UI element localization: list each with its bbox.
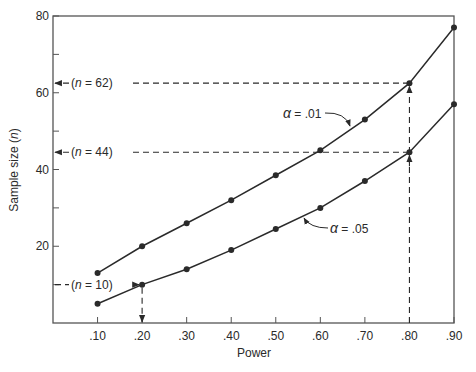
y-tick-label: 60 [36,86,50,100]
data-point [362,117,368,123]
x-tick-label: .60 [312,329,329,343]
annotation-value: = 44) [82,145,113,159]
series-labels: α = .01α = .05 [283,105,369,236]
x-tick-label: .90 [446,329,463,343]
y-tick-label: 80 [36,9,50,23]
series-label-alpha-05: α = .05 [330,220,369,236]
data-point [273,226,279,232]
x-tick-label: .50 [267,329,284,343]
x-tick-label: .20 [134,329,151,343]
annotation-label: (n = 10) [71,278,113,292]
y-axis: 20406080 [36,9,59,285]
plot-border [53,16,454,323]
data-point [406,80,412,86]
data-point [95,270,101,276]
annotation-label: (n = 44) [71,145,113,159]
y-tick-label: 40 [36,163,50,177]
data-point [228,197,234,203]
annotation-value: = 62) [82,76,113,90]
series-line-0 [98,28,454,274]
x-axis-title: Power [237,346,271,360]
data-point [184,266,190,272]
alpha-value: = .01 [291,107,322,121]
data-point [95,301,101,307]
data-point [406,149,412,155]
leader-arrow-01 [325,113,350,126]
data-point [139,282,145,288]
leader-arrow-05 [304,218,328,228]
data-point [317,205,323,211]
x-tick-label: .70 [357,329,374,343]
series-label-alpha-01: α = .01 [283,105,322,121]
y-axis-title-text: Sample size ( [7,139,21,212]
x-tick-label: .30 [178,329,195,343]
annotation-value: = 10) [82,278,113,292]
data-point [362,178,368,184]
x-tick-label: .80 [401,329,418,343]
x-tick-label: .40 [223,329,240,343]
power-sample-size-chart: 20406080 .10.20.30.40.50.60.70.80.90 (n … [0,0,476,372]
data-point [139,243,145,249]
x-axis: .10.20.30.40.50.60.70.80.90 [89,317,462,343]
y-axis-title: Sample size (n) [7,128,21,211]
y-tick-label: 20 [36,239,50,253]
alpha-value: = .05 [338,222,369,236]
annotation-label: (n = 62) [71,76,113,90]
data-point [228,247,234,253]
data-point [184,220,190,226]
series-group [95,25,457,307]
y-axis-title-close: ) [7,128,21,132]
data-point [317,147,323,153]
data-point [273,172,279,178]
series-line-1 [98,104,454,304]
x-tick-label: .10 [89,329,106,343]
plot-frame [53,16,454,323]
data-point [451,25,457,31]
data-point [451,101,457,107]
